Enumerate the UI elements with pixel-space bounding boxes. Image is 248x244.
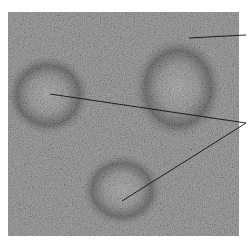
leader-line-1 bbox=[189, 35, 246, 38]
leader-line-3 bbox=[122, 123, 246, 201]
annotation-overlay bbox=[0, 0, 248, 244]
leader-line-2 bbox=[50, 94, 246, 123]
